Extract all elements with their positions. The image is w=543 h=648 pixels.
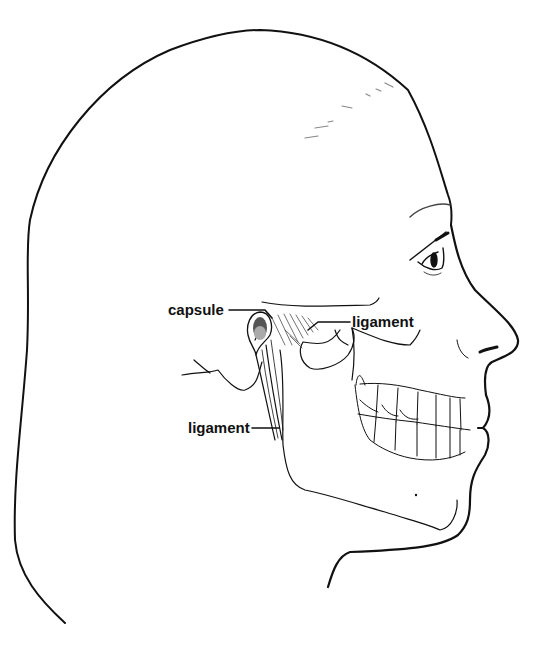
label-stylomandibular-ligament: ligament <box>188 420 250 435</box>
mental-foramen <box>415 494 417 496</box>
eyebrow <box>410 204 450 217</box>
teeth <box>355 376 470 460</box>
nasolabial <box>457 340 468 358</box>
face-profile <box>328 225 518 587</box>
eye <box>410 232 448 275</box>
label-capsule: capsule <box>168 302 224 317</box>
label-lateral-ligament: ligament <box>352 314 414 329</box>
hair-strokes <box>305 83 393 138</box>
nostril <box>480 347 497 352</box>
head-illustration <box>0 0 543 648</box>
condyle-capsule <box>248 312 284 440</box>
